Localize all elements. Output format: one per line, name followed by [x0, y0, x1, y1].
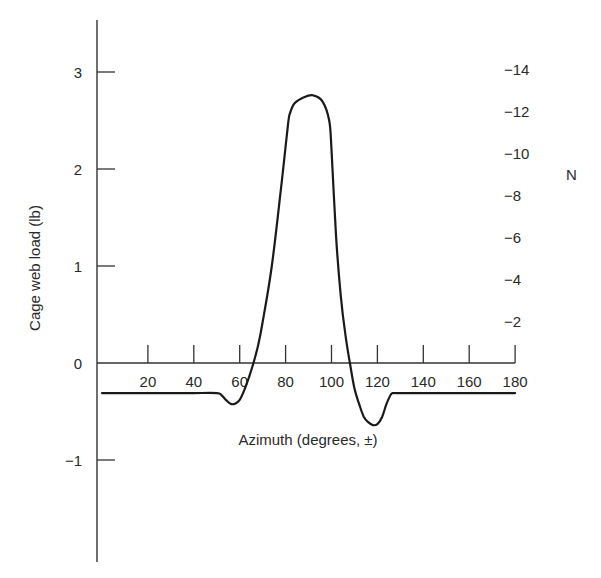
x-tick-label: 160: [457, 373, 482, 390]
right-tick-label: −2: [504, 313, 521, 330]
right-tick-label: −4: [504, 271, 521, 288]
y-axis-title: Cage web load (lb): [26, 205, 43, 331]
x-axis-ticks: 20406080100120140160180: [140, 345, 528, 390]
right-tick-label: −8: [504, 187, 521, 204]
right-axis-title: N: [566, 166, 577, 183]
load-curve: [102, 95, 515, 425]
x-tick-label: 140: [411, 373, 436, 390]
cage-web-load-chart: 20406080100120140160180 3210−1 −14−12−10…: [0, 0, 601, 578]
x-tick-label: 100: [319, 373, 344, 390]
x-tick-label: 80: [277, 373, 294, 390]
y-tick-label: 2: [74, 161, 82, 178]
y-tick-label: 1: [74, 258, 82, 275]
y-axis-ticks: 3210−1: [65, 64, 115, 469]
y-tick-label: 0: [74, 355, 82, 372]
chart-container: 20406080100120140160180 3210−1 −14−12−10…: [0, 0, 601, 578]
right-axis-ticks: −14−12−10−8−6−4−2: [504, 61, 529, 330]
right-tick-label: −10: [504, 145, 529, 162]
y-tick-label: −1: [65, 452, 82, 469]
x-tick-label: 20: [140, 373, 157, 390]
x-tick-label: 40: [185, 373, 202, 390]
right-tick-label: −12: [504, 103, 529, 120]
y-tick-label: 3: [74, 64, 82, 81]
x-axis-title: Azimuth (degrees, ±): [238, 431, 377, 448]
right-tick-label: −6: [504, 229, 521, 246]
right-tick-label: −14: [504, 61, 529, 78]
x-tick-label: 180: [503, 373, 528, 390]
axes: [97, 20, 515, 562]
x-tick-label: 120: [365, 373, 390, 390]
